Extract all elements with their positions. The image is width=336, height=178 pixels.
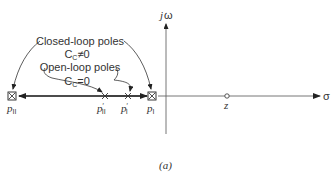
closed-loop-pole-p-II-icon [8,92,16,100]
open-loop-title: Open-loop poles [40,61,121,73]
figure-caption: (a) [159,159,172,172]
label-p-prime-II: p′II [96,102,106,115]
zero-z-icon [225,94,229,98]
label-p-I: pI [146,102,155,115]
imaginary-axis-label: jω [158,9,173,21]
real-axis-label: σ [323,90,330,102]
label-z: z [223,99,229,111]
closed-loop-condition: CC≠0 [64,48,89,61]
closed-loop-pole-p-I-icon [148,92,156,100]
label-p-prime-I: p′I [120,102,129,115]
closed-loop-title: Closed-loop poles [36,35,125,47]
label-p-II: pII [6,102,16,115]
root-locus-diagram: jω σ pII p′II p′I pI z Closed-loop poles [0,0,336,178]
